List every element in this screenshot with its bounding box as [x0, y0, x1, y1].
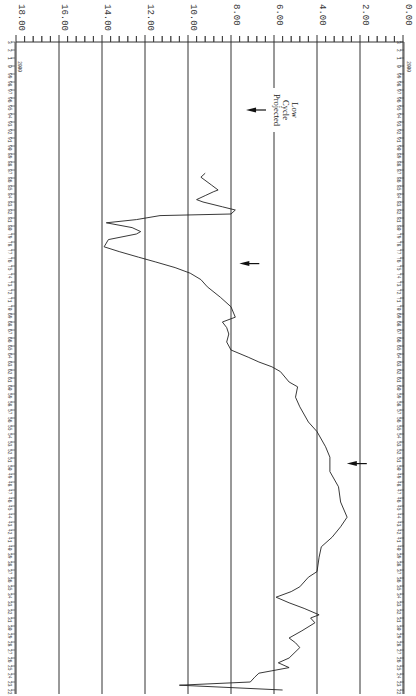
year-tick-label: 43: [7, 521, 12, 527]
year-tick-label: 85: [396, 185, 401, 191]
year-tick-label: 74: [396, 273, 401, 279]
year-tick-label: 92: [396, 129, 401, 135]
year-tick-label: 3: [396, 41, 401, 44]
year-tick-label: 65: [7, 345, 12, 351]
year-tick-label: 26: [7, 657, 12, 663]
year-tick-label: 87: [396, 169, 401, 175]
year-tick-label: 84: [7, 193, 12, 199]
year-tick-label: 57: [7, 409, 12, 415]
year-tick-label: 24: [396, 673, 401, 679]
year-tick-label: 36: [7, 577, 12, 583]
year-tick-label: 42: [7, 529, 12, 535]
year-tick-label: 93: [396, 121, 401, 127]
data-line: [104, 173, 347, 690]
value-tick-label: 14.00: [102, 4, 112, 31]
year-tick-label: 71: [396, 297, 401, 303]
year-tick-label: 52: [396, 449, 401, 455]
year-tick-label: 77: [396, 249, 401, 255]
year-tick-label: 58: [7, 401, 12, 407]
year-tick-label: 46: [396, 497, 401, 503]
year-tick-label: 96: [396, 97, 401, 103]
year-tick-label: 55: [7, 425, 12, 431]
year-tick-label: 50: [7, 465, 12, 471]
year-tick-label: 96: [7, 97, 12, 103]
year-tick-label: 56: [396, 417, 401, 423]
year-tick-label: 47: [7, 489, 12, 495]
year-tick-label: 81: [7, 217, 12, 223]
value-tick-label: 4.00: [317, 4, 327, 26]
value-tick-label: 0.00: [403, 4, 413, 26]
year-tick-label: 44: [396, 513, 401, 519]
year-tick-label: 89: [7, 153, 12, 159]
year-tick-label: 73: [7, 281, 12, 287]
year-tick-label: 2: [396, 49, 401, 52]
year-tick-label: 27: [7, 649, 12, 655]
year-tick-label: 57: [396, 409, 401, 415]
gridlines: [16, 35, 403, 694]
year-tick-label: 37: [396, 569, 401, 575]
year-tick-label: 72: [7, 289, 12, 295]
year-tick-label: 88: [396, 161, 401, 167]
year-tick-label: 0: [396, 65, 401, 68]
year-tick-label: 75: [7, 265, 12, 271]
chart: 0.002.004.006.008.0010.0012.0014.0016.00…: [0, 0, 416, 696]
year-tick-label: 70: [7, 305, 12, 311]
year-tick-label: 78: [396, 241, 401, 247]
year-tick-label: 83: [396, 201, 401, 207]
year-tick-label: 24: [7, 673, 12, 679]
year-tick-label: 1: [7, 57, 12, 60]
year-tick-label: 92: [7, 129, 12, 135]
value-axis-ticks: [16, 36, 403, 42]
value-tick-label: 10.00: [188, 4, 198, 31]
year-tick-label: 81: [396, 217, 401, 223]
year-axis-left: 2223242526272829303132333435363738394041…: [7, 41, 22, 695]
year-tick-label: 34: [7, 593, 12, 599]
year-tick-label: 61: [396, 377, 401, 383]
year-tick-label: 45: [396, 505, 401, 511]
year-tick-label: 28: [7, 641, 12, 647]
year-tick-label: 60: [396, 385, 401, 391]
year-tick-label: 74: [7, 273, 12, 279]
year-tick-label: 88: [7, 161, 12, 167]
year-tick-label: 70: [396, 305, 401, 311]
year-tick-label: 32: [7, 609, 12, 615]
value-tick-label: 12.00: [145, 4, 155, 31]
year-tick-label: 31: [396, 617, 401, 623]
year-tick-label: 29: [7, 633, 12, 639]
year-tick-label: 98: [7, 81, 12, 87]
value-tick-label: 8.00: [231, 4, 241, 26]
year-tick-label: 66: [396, 337, 401, 343]
year-tick-label: 86: [7, 177, 12, 183]
year-tick-label: 32: [396, 609, 401, 615]
year-tick-label: 23: [396, 681, 401, 687]
year-tick-label: 76: [7, 257, 12, 263]
year-tick-label: 84: [396, 193, 401, 199]
year-tick-label: 85: [7, 185, 12, 191]
year-tick-label: 77: [7, 249, 12, 255]
year-tick-label: 58: [396, 401, 401, 407]
year-tick-label: 65: [396, 345, 401, 351]
year-tick-label: 23: [7, 681, 12, 687]
year-tick-label: 43: [396, 521, 401, 527]
projected-cycle-low-label: Cycle: [281, 100, 291, 120]
cycle-low-arrow-icon-head: [239, 261, 249, 266]
year-tick-label: 61: [7, 377, 12, 383]
year-tick-label: 97: [7, 89, 12, 95]
year-tick-label: 68: [396, 321, 401, 327]
year-tick-label: 48: [7, 481, 12, 487]
year-tick-label: 37: [7, 569, 12, 575]
year-tick-label: 28: [396, 641, 401, 647]
projected-cycle-low-arrow-icon-head: [246, 108, 256, 113]
year-tick-label: 39: [7, 553, 12, 559]
year-tick-label: 67: [396, 329, 401, 335]
value-tick-label: 18.00: [16, 4, 26, 31]
year-tick-label: 56: [7, 417, 12, 423]
year-tick-label: 53: [396, 441, 401, 447]
year-tick-label: 25: [7, 665, 12, 671]
year-tick-label: 34: [396, 593, 401, 599]
year-sublabel: 2000: [17, 61, 22, 72]
year-tick-label: 40: [7, 545, 12, 551]
year-sublabel: 2000: [406, 61, 411, 72]
year-tick-label: 63: [396, 361, 401, 367]
projected-cycle-low-label: Projected: [272, 94, 282, 127]
